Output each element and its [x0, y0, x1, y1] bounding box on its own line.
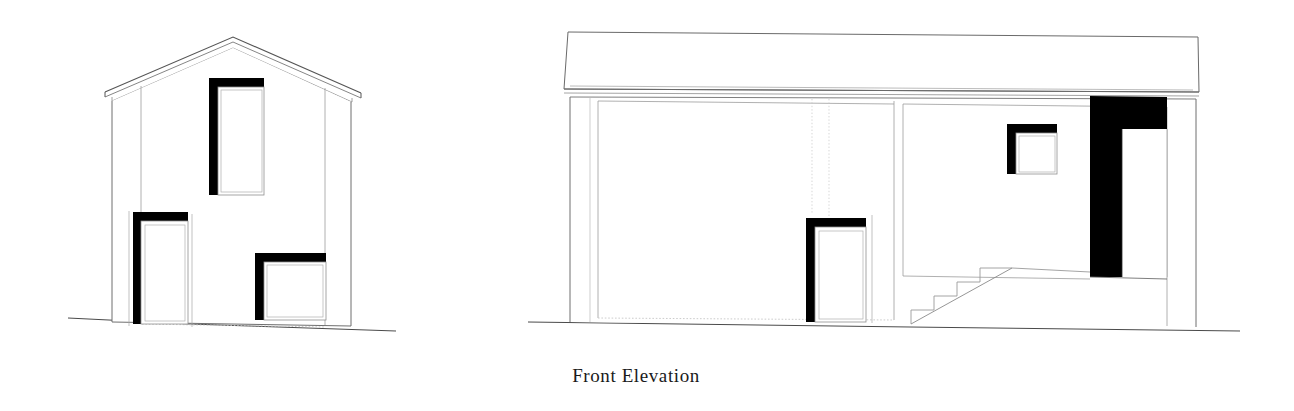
- caption-text: Front Elevation: [572, 365, 700, 387]
- drawing-caption: Front Elevation: [0, 365, 1294, 387]
- right-parapet-band: [564, 32, 1199, 96]
- entrance-recess-opening-face: [1122, 129, 1167, 277]
- left-ground-window: [255, 253, 326, 320]
- left-ground-door: [129, 211, 192, 327]
- right-parapet-outline: [564, 32, 1199, 92]
- left-door-leaf: [141, 221, 188, 324]
- right-bay-door-leaf: [815, 227, 866, 322]
- left-upper-window-glass: [218, 87, 264, 195]
- right-elevation-group: [528, 32, 1240, 331]
- drawing-sheet: Front Elevation: [0, 0, 1294, 411]
- left-upper-window: [209, 78, 264, 195]
- elevation-drawing-canvas: [0, 0, 1294, 411]
- right-small-window-glass: [1016, 133, 1057, 174]
- right-small-window: [1007, 124, 1057, 174]
- right-bay-door: [806, 215, 872, 323]
- right-entrance-recess: [1090, 96, 1167, 279]
- left-ground-window-glass: [264, 262, 326, 320]
